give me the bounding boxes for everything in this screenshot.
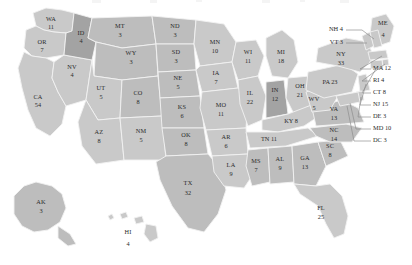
label-NV-code: NV bbox=[67, 63, 77, 70]
state-WY[interactable] bbox=[94, 42, 158, 80]
label-WA-votes: 11 bbox=[48, 23, 54, 30]
label-MI-code: MI bbox=[277, 48, 285, 55]
label-FL-code: FL bbox=[317, 204, 325, 211]
label-NE-code: NE bbox=[174, 74, 183, 81]
label-LA-code: LA bbox=[227, 161, 236, 168]
label-OR-code: OR bbox=[37, 38, 47, 45]
label-OR-votes: 7 bbox=[40, 46, 43, 53]
label-VA-code: VA bbox=[330, 105, 339, 112]
label-WV-votes: 5 bbox=[312, 104, 315, 111]
label-CO-code: CO bbox=[133, 89, 142, 96]
clipped-title-remnant bbox=[92, 0, 349, 3]
label-UT-code: UT bbox=[97, 84, 106, 91]
callout-NJ-label: NJ 15 bbox=[373, 100, 388, 107]
label-IL-votes: 22 bbox=[247, 98, 253, 105]
callout-MD-label: MD 10 bbox=[373, 124, 391, 131]
label-MN-code: MN bbox=[210, 38, 221, 45]
label-ME-code: ME bbox=[378, 19, 388, 26]
label-AR-code: AR bbox=[221, 133, 231, 140]
label-LA-votes: 9 bbox=[229, 170, 232, 177]
label-WI-code: WI bbox=[244, 48, 252, 55]
label-NY-code: NY bbox=[336, 50, 346, 57]
callout-RI-label: RI 4 bbox=[373, 76, 385, 83]
label-PA-inline: PA 23 bbox=[323, 78, 338, 85]
label-ND-votes: 3 bbox=[173, 31, 176, 38]
callout-DC-label: DC 3 bbox=[373, 136, 387, 143]
label-NM-votes: 5 bbox=[139, 136, 142, 143]
label-MI-votes: 18 bbox=[278, 57, 284, 64]
state-CO[interactable] bbox=[120, 76, 162, 118]
state-NM[interactable] bbox=[120, 116, 166, 160]
label-AR-votes: 6 bbox=[224, 142, 227, 149]
label-NC-code: NC bbox=[329, 126, 338, 133]
label-NY-votes: 33 bbox=[338, 59, 344, 66]
label-NM-code: NM bbox=[136, 127, 147, 134]
label-IA-votes: 7 bbox=[214, 78, 217, 85]
label-MN-votes: 10 bbox=[212, 47, 218, 54]
label-CA-code: CA bbox=[33, 93, 42, 100]
label-GA-votes: 13 bbox=[302, 163, 308, 170]
label-AZ-code: AZ bbox=[95, 128, 104, 135]
label-AK-code: AK bbox=[36, 198, 46, 205]
label-AZ-votes: 8 bbox=[97, 137, 100, 144]
electoral-college-map: WA 11 OR 7 CA 54 NV 4 ID 4 MT 3 WY 3 UT … bbox=[0, 0, 412, 265]
label-SC-votes: 8 bbox=[328, 151, 331, 158]
label-MO-votes: 11 bbox=[218, 110, 224, 117]
label-AK-votes: 3 bbox=[39, 207, 42, 214]
label-IL-code: IL bbox=[247, 89, 253, 96]
label-KY-inline: KY 8 bbox=[284, 117, 298, 124]
label-CO-votes: 8 bbox=[136, 98, 139, 105]
callout-DE-label: DE 3 bbox=[373, 112, 386, 119]
label-SD-code: SD bbox=[172, 48, 181, 55]
label-NC-votes: 14 bbox=[331, 135, 338, 142]
label-ND-code: ND bbox=[170, 22, 180, 29]
label-AL-votes: 9 bbox=[278, 164, 281, 171]
label-OH-code: OH bbox=[295, 82, 305, 89]
us-map-svg: WA 11 OR 7 CA 54 NV 4 ID 4 MT 3 WY 3 UT … bbox=[0, 0, 412, 265]
label-ID-code: ID bbox=[77, 29, 84, 36]
label-TN-inline: TN 11 bbox=[261, 135, 277, 142]
callout-NH-label: NH 4 bbox=[329, 25, 344, 32]
label-HI-code: HI bbox=[124, 228, 131, 235]
label-KS-code: KS bbox=[178, 103, 187, 110]
state-HI[interactable] bbox=[108, 212, 158, 242]
label-VA-votes: 13 bbox=[331, 114, 337, 121]
label-OK-votes: 8 bbox=[184, 140, 187, 147]
label-WY-code: WY bbox=[126, 49, 137, 56]
label-WA-code: WA bbox=[46, 15, 56, 22]
label-MT-code: MT bbox=[115, 22, 125, 29]
label-MS-votes: 7 bbox=[254, 166, 257, 173]
label-MS-code: MS bbox=[251, 157, 261, 164]
label-WV-code: WV bbox=[309, 95, 320, 102]
label-FL-votes: 25 bbox=[318, 213, 324, 220]
label-SD-votes: 3 bbox=[174, 57, 177, 64]
label-MT-votes: 3 bbox=[118, 31, 121, 38]
label-OK-code: OK bbox=[181, 131, 191, 138]
label-WY-votes: 3 bbox=[129, 58, 132, 65]
callout-CT-label: CT 8 bbox=[373, 88, 386, 95]
label-SC-code: SC bbox=[326, 142, 334, 149]
callout-MA-label: MA 12 bbox=[373, 64, 391, 71]
label-AL-code: AL bbox=[276, 155, 285, 162]
label-TX-code: TX bbox=[184, 179, 193, 186]
label-CA-votes: 54 bbox=[35, 101, 42, 108]
label-OH-votes: 21 bbox=[297, 91, 303, 98]
state-ND[interactable] bbox=[152, 16, 196, 44]
label-NE-votes: 5 bbox=[176, 83, 179, 90]
label-TX-votes: 32 bbox=[185, 189, 191, 196]
label-GA-code: GA bbox=[300, 154, 310, 161]
label-IN-votes: 12 bbox=[272, 95, 278, 102]
label-IA-code: IA bbox=[212, 69, 219, 76]
label-MO-code: MO bbox=[216, 101, 227, 108]
label-KS-votes: 6 bbox=[180, 112, 183, 119]
callout-VT-label: VT 3 bbox=[330, 38, 343, 45]
label-WI-votes: 11 bbox=[245, 57, 251, 64]
label-UT-votes: 5 bbox=[99, 93, 102, 100]
label-IN-code: IN bbox=[271, 86, 278, 93]
label-HI-votes: 4 bbox=[126, 240, 130, 247]
state-IA[interactable] bbox=[196, 62, 238, 92]
state-AK[interactable] bbox=[14, 182, 76, 246]
